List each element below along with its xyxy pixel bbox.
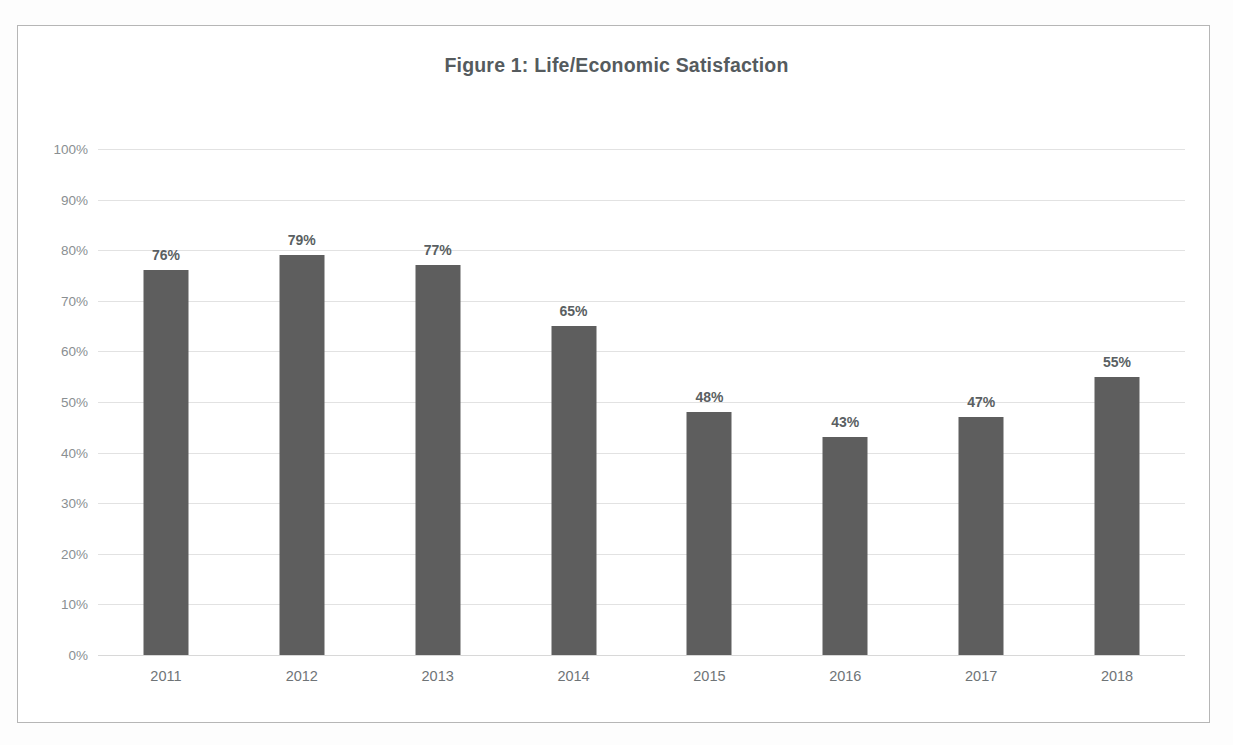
bar-group: 47% <box>913 149 1049 655</box>
bar-value-label: 55% <box>1103 354 1131 370</box>
y-axis-tick-label: 80% <box>26 243 88 258</box>
bar <box>279 255 324 655</box>
x-axis-tick-label: 2014 <box>506 668 642 684</box>
bar <box>823 437 868 655</box>
y-axis-tick-label: 70% <box>26 293 88 308</box>
y-axis-tick-label: 20% <box>26 546 88 561</box>
gridline <box>98 655 1185 656</box>
chart-title: Figure 1: Life/Economic Satisfaction <box>0 54 1233 77</box>
chart-figure: Figure 1: Life/Economic Satisfaction 100… <box>0 0 1233 745</box>
y-axis-tick-label: 0% <box>26 648 88 663</box>
x-axis-tick-label: 2012 <box>234 668 370 684</box>
bar <box>415 265 460 655</box>
bar-group: 79% <box>234 149 370 655</box>
y-axis-tick-label: 10% <box>26 597 88 612</box>
x-axis-tick-label: 2016 <box>777 668 913 684</box>
x-axis-tick-label: 2011 <box>98 668 234 684</box>
y-axis-tick-label: 50% <box>26 395 88 410</box>
bar-value-label: 77% <box>424 242 452 258</box>
x-axis-tick-label: 2018 <box>1049 668 1185 684</box>
bar-value-label: 65% <box>560 303 588 319</box>
bar-group: 43% <box>777 149 913 655</box>
bar-series: 76%79%77%65%48%43%47%55% <box>98 149 1185 655</box>
y-axis-tick-label: 40% <box>26 445 88 460</box>
bar <box>551 326 596 655</box>
bar-group: 77% <box>370 149 506 655</box>
y-axis-tick-label: 60% <box>26 344 88 359</box>
bar <box>687 412 732 655</box>
bar-value-label: 47% <box>967 394 995 410</box>
bar-value-label: 43% <box>831 414 859 430</box>
bar-value-label: 79% <box>288 232 316 248</box>
y-axis-tick-label: 100% <box>26 142 88 157</box>
x-axis-tick-label: 2017 <box>913 668 1049 684</box>
bar <box>143 270 188 655</box>
bar-group: 48% <box>642 149 778 655</box>
x-axis-tick-label: 2015 <box>642 668 778 684</box>
y-axis-tick-labels: 100%90%80%70%60%50%40%30%20%10%0% <box>26 149 88 655</box>
y-axis-tick-label: 30% <box>26 496 88 511</box>
x-axis-tick-label: 2013 <box>370 668 506 684</box>
bar <box>959 417 1004 655</box>
bar-value-label: 48% <box>695 389 723 405</box>
bar-value-label: 76% <box>152 247 180 263</box>
y-axis-tick-label: 90% <box>26 192 88 207</box>
x-axis-tick-labels: 20112012201320142015201620172018 <box>98 668 1185 692</box>
bar-group: 55% <box>1049 149 1185 655</box>
bar <box>1095 377 1140 655</box>
bar-group: 76% <box>98 149 234 655</box>
bar-group: 65% <box>506 149 642 655</box>
